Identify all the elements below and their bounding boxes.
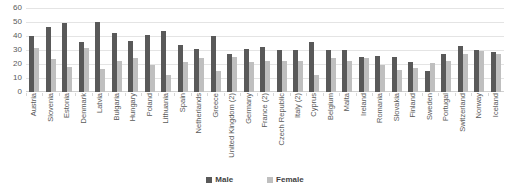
y-tick-label: 40 <box>0 32 22 40</box>
x-tick-mark <box>240 93 241 96</box>
y-tick-label: 10 <box>0 74 22 82</box>
bar-female[interactable] <box>413 68 418 93</box>
x-tick-label: Ireland <box>360 93 368 116</box>
x-tick-mark <box>339 93 340 96</box>
x-label-cell: Switzerland <box>455 93 471 165</box>
bar-group <box>207 8 223 92</box>
x-tick-label: Switzerland <box>459 93 467 132</box>
bar-group <box>174 8 190 92</box>
legend-swatch-female <box>267 177 273 183</box>
x-label-cell: Iceland <box>488 93 504 165</box>
x-tick-label: Lithuania <box>162 93 170 123</box>
bar-female[interactable] <box>479 51 484 92</box>
x-tick-mark <box>455 93 456 96</box>
bar-female[interactable] <box>463 54 468 92</box>
x-tick-label: Italy (2) <box>294 93 302 118</box>
bar-group <box>389 8 405 92</box>
bar-female[interactable] <box>282 61 287 92</box>
x-label-cell: Greece <box>207 93 223 165</box>
x-label-cell: Austria <box>26 93 42 165</box>
bar-group <box>422 8 438 92</box>
bar-group <box>438 8 454 92</box>
legend-item-male[interactable]: Male <box>206 176 233 184</box>
x-tick-label: Malta <box>343 93 351 111</box>
bar-female[interactable] <box>430 63 435 92</box>
x-label-cell: Netherlands <box>191 93 207 165</box>
x-tick-mark <box>488 93 489 96</box>
bar-group <box>290 8 306 92</box>
bar-female[interactable] <box>183 62 188 92</box>
x-tick-mark <box>405 93 406 96</box>
bar-female[interactable] <box>446 61 451 93</box>
bar-female[interactable] <box>298 61 303 92</box>
bar-group <box>339 8 355 92</box>
x-label-cell: Sweden <box>422 93 438 165</box>
x-tick-label: Greece <box>212 93 220 118</box>
bar-female[interactable] <box>347 61 352 92</box>
x-tick-label: Cyprus <box>310 93 318 117</box>
x-tick-label: United Kingdom (2) <box>228 93 236 158</box>
bar-group <box>191 8 207 92</box>
bar-female[interactable] <box>496 54 501 93</box>
chart-legend: Male Female <box>0 176 510 184</box>
legend-item-female[interactable]: Female <box>267 176 304 184</box>
bar-group <box>306 8 322 92</box>
bar-group <box>59 8 75 92</box>
x-label-cell: Bulgaria <box>108 93 124 165</box>
bar-group <box>26 8 42 92</box>
bar-groups <box>26 8 504 92</box>
bar-female[interactable] <box>199 58 204 92</box>
x-tick-label: Norway <box>475 93 483 118</box>
x-tick-mark <box>191 93 192 96</box>
x-tick-label: Bulgaria <box>113 93 121 121</box>
bar-female[interactable] <box>166 75 171 93</box>
bar-female[interactable] <box>265 61 270 92</box>
x-label-cell: Norway <box>471 93 487 165</box>
x-tick-label: Romania <box>376 93 384 123</box>
plot-area <box>26 8 504 92</box>
x-tick-mark <box>372 93 373 96</box>
bar-female[interactable] <box>133 58 138 92</box>
bar-female[interactable] <box>232 57 237 92</box>
bar-female[interactable] <box>216 71 221 92</box>
x-label-cell: Czech Republic <box>273 93 289 165</box>
bar-chart: 6050403020100 AustriaSloveniaEstoniaDenm… <box>0 0 510 196</box>
x-tick-mark <box>141 93 142 96</box>
bar-group <box>75 8 91 92</box>
bar-group <box>455 8 471 92</box>
bar-female[interactable] <box>150 65 155 92</box>
bar-female[interactable] <box>380 65 385 92</box>
x-tick-mark <box>42 93 43 96</box>
x-tick-label: Estonia <box>63 93 71 118</box>
bar-female[interactable] <box>84 48 89 92</box>
bar-group <box>471 8 487 92</box>
y-tick-label: 30 <box>0 46 22 54</box>
x-label-cell: Belgium <box>323 93 339 165</box>
bar-female[interactable] <box>67 67 72 92</box>
bar-female[interactable] <box>100 69 105 92</box>
bar-female[interactable] <box>34 48 39 92</box>
x-tick-mark <box>207 93 208 96</box>
bar-group <box>372 8 388 92</box>
x-tick-mark <box>438 93 439 96</box>
legend-label-male: Male <box>215 176 233 184</box>
bar-female[interactable] <box>51 59 56 92</box>
x-tick-mark <box>108 93 109 96</box>
x-label-cell: United Kingdom (2) <box>224 93 240 165</box>
bar-female[interactable] <box>117 61 122 93</box>
bar-female[interactable] <box>397 70 402 92</box>
legend-label-female: Female <box>276 176 304 184</box>
x-label-cell: Hungary <box>125 93 141 165</box>
y-tick-label: 0 <box>0 88 22 96</box>
bar-group <box>42 8 58 92</box>
x-tick-mark <box>224 93 225 96</box>
x-tick-mark <box>290 93 291 96</box>
x-tick-label: France (2) <box>261 93 269 128</box>
bar-female[interactable] <box>314 75 319 92</box>
bar-female[interactable] <box>364 58 369 92</box>
legend-swatch-male <box>206 177 212 183</box>
bar-female[interactable] <box>331 58 336 92</box>
x-tick-label: Netherlands <box>195 93 203 133</box>
bar-female[interactable] <box>249 62 254 92</box>
x-label-cell: Slovenia <box>42 93 58 165</box>
